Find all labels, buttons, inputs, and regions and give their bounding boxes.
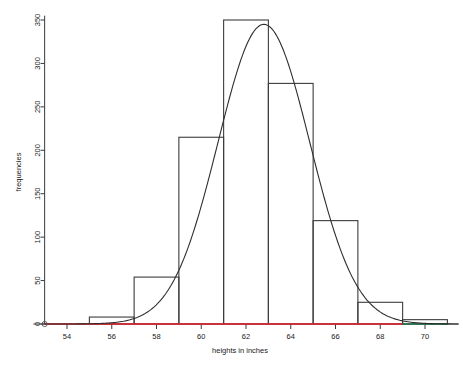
x-tick-label: 58: [152, 332, 160, 341]
y-tick-label: 100: [33, 231, 42, 244]
y-tick-label: 250: [33, 101, 42, 114]
x-tick-label: 56: [108, 332, 116, 341]
x-tick-label: 62: [242, 332, 250, 341]
x-tick-label: 68: [376, 332, 384, 341]
y-tick-label: 50: [33, 276, 42, 284]
chart-canvas: 050100150200250300350 545658606264666870…: [0, 0, 463, 370]
histogram-chart: 050100150200250300350 545658606264666870…: [0, 0, 463, 370]
x-tick-label: 66: [331, 332, 339, 341]
y-axis-title: frequencies: [14, 152, 23, 191]
x-tick-label: 70: [421, 332, 429, 341]
y-tick-label: 200: [33, 144, 42, 157]
x-tick-label: 60: [197, 332, 205, 341]
y-tick-label: 150: [33, 187, 42, 200]
x-tick-label: 64: [287, 332, 295, 341]
chart-background: [0, 0, 463, 370]
y-tick-label: 300: [33, 57, 42, 70]
x-axis-title: heights in inches: [212, 346, 268, 355]
y-tick-label: 350: [33, 14, 42, 27]
x-tick-label: 54: [63, 332, 71, 341]
